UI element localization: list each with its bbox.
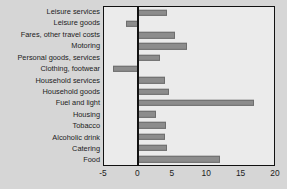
bar xyxy=(138,111,156,117)
x-tick-label: 20 xyxy=(270,168,279,178)
bar-row xyxy=(104,75,274,86)
category-label: Tobacco xyxy=(0,120,103,131)
x-tick-label: 0 xyxy=(135,168,140,178)
bar xyxy=(138,43,187,49)
bar xyxy=(138,77,165,83)
x-tick-label: -5 xyxy=(99,168,106,178)
category-axis-labels: Leisure servicesLeisure goodsFares, othe… xyxy=(0,6,103,166)
x-tick-label: 10 xyxy=(202,168,211,178)
bar xyxy=(126,21,138,27)
plot-inner xyxy=(104,7,274,165)
bar-row xyxy=(104,154,274,165)
bar xyxy=(138,88,169,94)
bar-row xyxy=(104,18,274,29)
bar-row xyxy=(104,7,274,18)
bar-series xyxy=(104,7,274,165)
category-label: Fuel and light xyxy=(0,97,103,108)
bar xyxy=(138,145,167,151)
category-label: Fares, other travel costs xyxy=(0,29,103,40)
plot-area xyxy=(103,6,275,166)
bar xyxy=(138,32,175,38)
bar-row xyxy=(104,63,274,74)
category-label: Catering xyxy=(0,143,103,154)
bar-row xyxy=(104,41,274,52)
bar-row xyxy=(104,30,274,41)
x-tick-label: 5 xyxy=(169,168,174,178)
bar-row xyxy=(104,131,274,142)
bar xyxy=(113,66,138,72)
category-label: Household goods xyxy=(0,86,103,97)
bar xyxy=(138,55,160,61)
bar xyxy=(138,156,220,162)
category-label: Household services xyxy=(0,75,103,86)
zero-reference-line xyxy=(137,7,139,165)
bar xyxy=(138,134,165,140)
bar xyxy=(138,122,166,128)
bar-row xyxy=(104,120,274,131)
bar xyxy=(138,100,254,106)
category-label: Housing xyxy=(0,109,103,120)
bar-row xyxy=(104,142,274,153)
chart-figure: Leisure servicesLeisure goodsFares, othe… xyxy=(0,0,287,189)
category-label: Food xyxy=(0,154,103,165)
bar-row xyxy=(104,97,274,108)
x-tick-label: 15 xyxy=(236,168,245,178)
bar-row xyxy=(104,52,274,63)
x-axis-ticks: -505101520 xyxy=(103,167,275,181)
category-label: Clothing, footwear xyxy=(0,63,103,74)
category-label: Leisure goods xyxy=(0,17,103,28)
bar xyxy=(138,9,167,15)
category-label: Personal goods, services xyxy=(0,52,103,63)
bar-row xyxy=(104,86,274,97)
category-label: Leisure services xyxy=(0,6,103,17)
bar-row xyxy=(104,109,274,120)
category-label: Motoring xyxy=(0,40,103,51)
category-label: Alcoholic drink xyxy=(0,132,103,143)
